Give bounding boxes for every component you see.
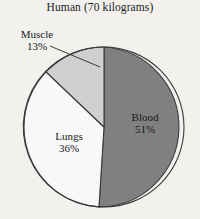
slice-label-lungs: Lungs 36% — [38, 131, 100, 155]
slice-label-blood-value: 51% — [118, 124, 172, 136]
pie-chart: Human (70 kilograms) Muscle 13% Blood 51… — [0, 0, 200, 219]
slice-label-blood: Blood 51% — [118, 112, 172, 136]
slice-label-muscle: Muscle 13% — [6, 29, 68, 53]
slice-label-lungs-value: 36% — [38, 143, 100, 155]
slice-label-muscle-value: 13% — [6, 41, 68, 53]
